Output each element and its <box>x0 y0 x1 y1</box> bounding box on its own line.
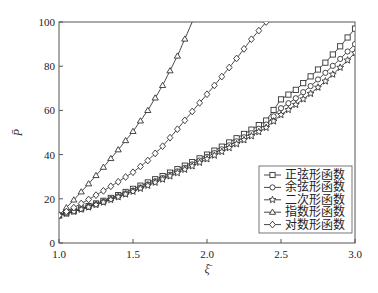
y-tick-label: 0 <box>50 237 56 249</box>
legend-label: 对数形函数 <box>285 217 345 232</box>
x-tick-label: 2.5 <box>274 248 288 260</box>
series-diamond <box>56 19 269 219</box>
y-axis-label: P̄ <box>11 128 25 137</box>
y-tick-label: 100 <box>39 16 56 28</box>
y-tick-label: 60 <box>44 104 56 116</box>
x-tick-label: 2.0 <box>200 248 214 260</box>
y-tick-label: 80 <box>44 60 56 72</box>
series-triangle <box>56 22 192 217</box>
axes: 1.01.52.02.53.0020406080100ξ̄P̄ <box>11 16 362 276</box>
chart: 1.01.52.02.53.0020406080100ξ̄P̄ 正弦形函数余弦形… <box>0 0 378 293</box>
x-tick-label: 1.0 <box>52 248 66 260</box>
y-tick-label: 20 <box>44 193 56 205</box>
x-tick-label: 1.5 <box>126 248 140 260</box>
y-tick-label: 40 <box>44 149 56 161</box>
x-axis-label: ξ̄ <box>204 262 212 276</box>
x-tick-label: 3.0 <box>348 248 362 260</box>
legend: 正弦形函数余弦形函数二次形函数指数形函数对数形函数 <box>259 166 352 233</box>
